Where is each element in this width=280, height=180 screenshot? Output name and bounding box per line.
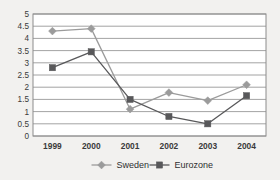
- y-axis-ticks: 00.511.522.533.544.55: [18, 10, 30, 141]
- x-tick-label: 2004: [237, 141, 256, 151]
- y-tick-label: 2: [24, 83, 29, 92]
- y-tick-label: 1: [24, 108, 29, 117]
- y-tick-label: 0.5: [18, 120, 30, 129]
- legend-item-sweden: Sweden: [92, 160, 150, 170]
- x-axis-ticks: 199920002001200220032004: [43, 141, 256, 151]
- data-point-marker: [166, 113, 172, 119]
- y-tick-label: 1.5: [18, 95, 30, 104]
- y-tick-label: 4.5: [18, 22, 30, 31]
- x-tick-label: 2003: [198, 141, 217, 151]
- y-tick-label: 3: [24, 59, 29, 68]
- legend-item-eurozone: Eurozone: [150, 160, 214, 170]
- y-tick-label: 2.5: [18, 71, 30, 80]
- data-point-marker: [88, 49, 94, 55]
- y-tick-label: 3.5: [18, 47, 30, 56]
- legend-marker: [156, 162, 162, 168]
- legend-label: Sweden: [117, 160, 150, 170]
- y-tick-label: 5: [24, 10, 29, 19]
- y-tick-label: 0: [24, 132, 29, 141]
- x-tick-label: 2001: [121, 141, 140, 151]
- x-tick-label: 1999: [43, 141, 62, 151]
- data-point-marker: [49, 65, 55, 71]
- legend-label: Eurozone: [175, 160, 214, 170]
- data-point-marker: [243, 93, 249, 99]
- data-point-marker: [205, 121, 211, 127]
- y-tick-label: 4: [24, 34, 29, 43]
- legend: SwedenEurozone: [92, 160, 214, 170]
- data-point-marker: [127, 96, 133, 102]
- x-tick-label: 2002: [160, 141, 179, 151]
- chart-canvas: 00.511.522.533.544.551999200020012002200…: [0, 0, 280, 180]
- line-chart: 00.511.522.533.544.551999200020012002200…: [0, 0, 280, 180]
- x-tick-label: 2000: [82, 141, 101, 151]
- legend-marker: [98, 161, 106, 169]
